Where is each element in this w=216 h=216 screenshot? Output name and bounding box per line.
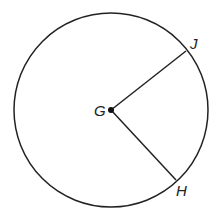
radius-gj (111, 51, 186, 110)
label-h: H (176, 182, 187, 199)
center-point (108, 107, 114, 113)
label-j: J (189, 35, 198, 52)
radius-gh (111, 110, 176, 180)
label-g: G (94, 102, 106, 119)
circle-diagram: G J H (0, 0, 216, 216)
